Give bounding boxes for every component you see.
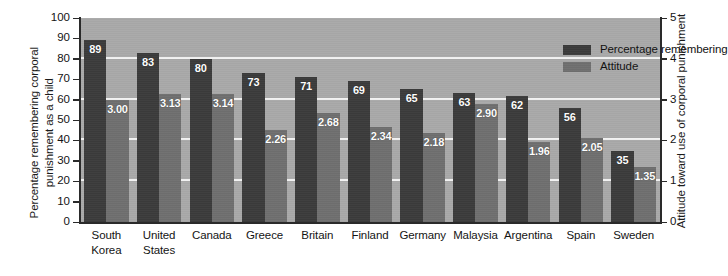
- y-axis-left-tick: [73, 160, 79, 162]
- y-axis-left-tick-label: 10: [10, 196, 70, 208]
- bar-value-label: 2.34: [370, 131, 392, 142]
- bar-percentage-remembering: 63: [453, 93, 475, 222]
- y-axis-right-tick-label: 0: [670, 216, 676, 228]
- bar-percentage-remembering: 89: [84, 40, 106, 222]
- x-axis-category-label-line: South: [80, 228, 133, 243]
- bar-value-label: 89: [84, 44, 106, 55]
- y-axis-right-tick-label: 3: [670, 94, 676, 106]
- x-axis-category-label: Argentina: [502, 228, 555, 243]
- bar-value-label: 80: [190, 63, 212, 74]
- plot-area: 893.00833.13803.14732.26712.68692.34652.…: [80, 18, 660, 222]
- bar-value-label: 35: [611, 155, 633, 166]
- x-axis-category-label-line: States: [133, 243, 186, 258]
- x-axis-category-label-line: Sweden: [607, 228, 660, 243]
- bar-group: 803.14: [190, 18, 235, 222]
- bar-group: 893.00: [84, 18, 129, 222]
- bar-percentage-remembering: 62: [506, 96, 528, 222]
- x-axis-category-label-line: United: [133, 228, 186, 243]
- y-axis-left-tick: [73, 222, 79, 224]
- bar-percentage-remembering: 56: [559, 108, 581, 222]
- bar-attitude: 2.68: [317, 113, 339, 222]
- legend-color-swatch: [563, 45, 591, 55]
- bar-group: 632.90: [453, 18, 498, 222]
- bar-value-label: 2.68: [317, 117, 339, 128]
- y-axis-right-tick: [661, 58, 667, 60]
- y-axis-left-tick-label: 70: [10, 73, 70, 85]
- y-axis-left-tick: [73, 120, 79, 122]
- x-axis-category-label-line: Korea: [80, 243, 133, 258]
- bar-value-label: 3.14: [212, 98, 234, 109]
- bar-group: 621.96: [506, 18, 551, 222]
- y-axis-left-tick-label: 40: [10, 134, 70, 146]
- bar-attitude: 2.18: [423, 133, 445, 222]
- legend-item: Attitude: [563, 60, 728, 73]
- bar-value-label: 2.18: [423, 137, 445, 148]
- y-axis-right-tick: [661, 99, 667, 101]
- bar-attitude: 3.13: [159, 94, 181, 222]
- y-axis-left-tick-label: 80: [10, 53, 70, 65]
- x-axis-category-label: Canada: [185, 228, 238, 243]
- x-axis-category-label-line: Germany: [396, 228, 449, 243]
- legend-item-label: Attitude: [600, 61, 638, 73]
- bar-attitude: 2.34: [370, 127, 392, 222]
- y-axis-left-tick-label: 30: [10, 155, 70, 167]
- bar-value-label: 1.96: [528, 146, 550, 157]
- x-axis-category-label: Finland: [344, 228, 397, 243]
- bar-group: 712.68: [295, 18, 340, 222]
- x-axis-category-label: SouthKorea: [80, 228, 133, 258]
- y-axis-right-spine: [660, 17, 662, 223]
- y-axis-right-tick: [661, 18, 667, 20]
- x-axis-category-label: Britain: [291, 228, 344, 243]
- bar-attitude: 1.35: [634, 167, 656, 222]
- x-axis-spine: [79, 222, 662, 224]
- x-axis-category-label: Germany: [396, 228, 449, 243]
- y-axis-right-tick-label: 5: [670, 12, 676, 24]
- bar-group: 692.34: [348, 18, 393, 222]
- x-axis-category-label-line: Britain: [291, 228, 344, 243]
- bar-value-label: 56: [559, 112, 581, 123]
- y-axis-left-tick: [73, 18, 79, 20]
- bar-percentage-remembering: 80: [190, 59, 212, 222]
- y-axis-left-tick-label: 100: [10, 12, 70, 24]
- legend-item-label: Percentage remembering: [600, 44, 728, 56]
- bar-group: 652.18: [400, 18, 445, 222]
- bar-attitude: 2.26: [265, 130, 287, 222]
- bar-value-label: 2.05: [581, 142, 603, 153]
- bar-value-label: 2.90: [475, 108, 497, 119]
- x-axis-category-label-line: Greece: [238, 228, 291, 243]
- bar-value-label: 73: [242, 77, 264, 88]
- bar-value-label: 69: [348, 85, 370, 96]
- x-axis-category-label: Spain: [555, 228, 608, 243]
- y-axis-left-tick: [73, 140, 79, 142]
- y-axis-left-tick-label: 60: [10, 94, 70, 106]
- y-axis-left-tick-label: 0: [10, 216, 70, 228]
- bar-percentage-remembering: 83: [137, 53, 159, 222]
- bar-value-label: 3.00: [106, 104, 128, 115]
- y-axis-left-tick: [73, 201, 79, 203]
- bar-attitude: 1.96: [528, 142, 550, 222]
- bar-value-label: 71: [295, 81, 317, 92]
- bar-value-label: 83: [137, 57, 159, 68]
- x-axis-category-label: Greece: [238, 228, 291, 243]
- y-axis-left-tick: [73, 99, 79, 101]
- x-axis-category-label-line: Malaysia: [449, 228, 502, 243]
- x-axis-category-label-line: Argentina: [502, 228, 555, 243]
- bar-attitude: 3.00: [106, 100, 128, 222]
- y-axis-left-tick: [73, 79, 79, 81]
- bar-group: 833.13: [137, 18, 182, 222]
- bar-attitude: 3.14: [212, 94, 234, 222]
- x-axis-category-label-line: Spain: [555, 228, 608, 243]
- x-axis-category-label: Malaysia: [449, 228, 502, 243]
- bar-attitude: 2.90: [475, 104, 497, 222]
- bar-percentage-remembering: 69: [348, 81, 370, 222]
- y-axis-right-tick: [661, 181, 667, 183]
- y-axis-left-tick: [73, 38, 79, 40]
- bar-percentage-remembering: 65: [400, 89, 422, 222]
- y-axis-right-tick-label: 2: [670, 134, 676, 146]
- chart-container: Percentage remembering corporal punishme…: [0, 0, 728, 276]
- x-axis-category-label: Sweden: [607, 228, 660, 243]
- y-axis-left-tick-label: 20: [10, 175, 70, 187]
- y-axis-left-spine: [79, 17, 81, 223]
- x-axis-category-label: UnitedStates: [133, 228, 186, 258]
- bar-percentage-remembering: 71: [295, 77, 317, 222]
